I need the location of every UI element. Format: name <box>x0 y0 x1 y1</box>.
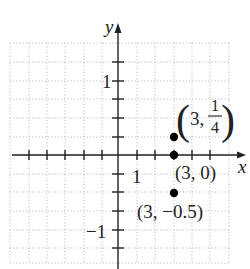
svg-text:3,: 3, <box>190 108 209 129</box>
point-label-3-0: (3, 0) <box>175 162 216 184</box>
y-axis-arrow-icon <box>115 23 122 33</box>
svg-text:(: ( <box>176 97 190 144</box>
svg-text:1: 1 <box>211 97 219 114</box>
svg-text:): ) <box>221 97 235 144</box>
point-label-3-neg-half: (3, −0.5) <box>137 201 203 223</box>
coordinate-plane: y x 1 −1 1 ( 3, 1 4 ) (3, 0) (3, −0.5) <box>0 0 250 269</box>
y-axis-label: y <box>103 16 114 37</box>
x-tick-label-1: 1 <box>132 166 142 187</box>
y-tick-label-neg1: −1 <box>86 221 106 242</box>
point-3-neg-half <box>170 189 178 197</box>
x-axis <box>12 150 240 160</box>
y-tick-label-1: 1 <box>102 71 112 92</box>
svg-text:4: 4 <box>211 119 219 136</box>
point-3-0 <box>170 151 178 159</box>
y-axis <box>112 30 124 269</box>
x-axis-label: x <box>237 156 247 177</box>
